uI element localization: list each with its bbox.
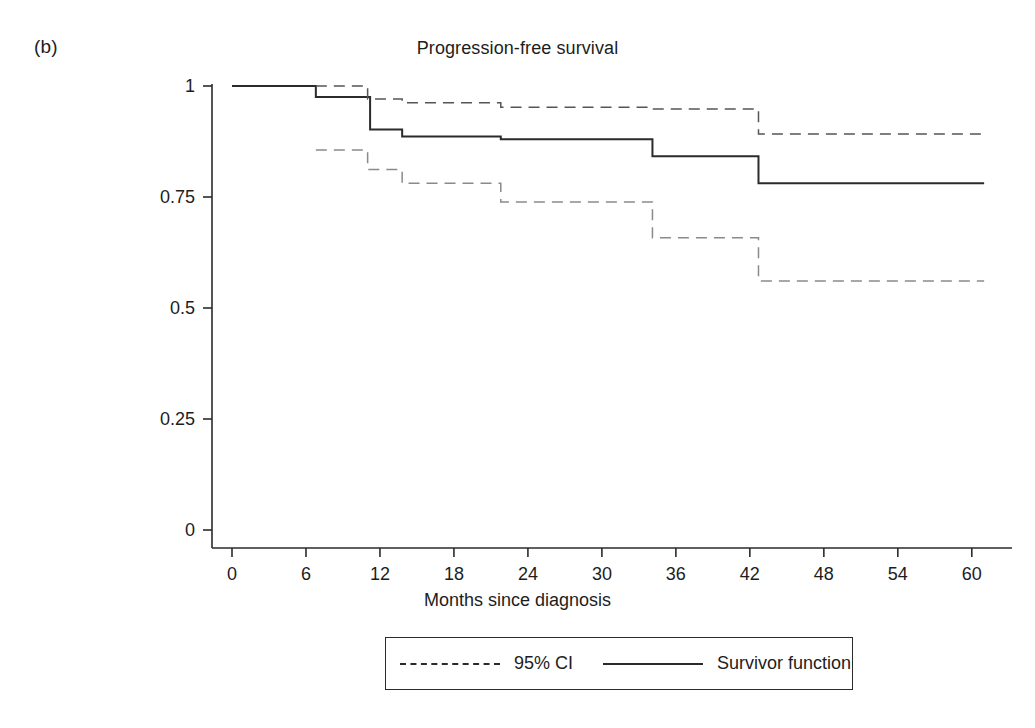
figure-panel: (b) Progression-free survival 00.250.50.…: [0, 0, 1035, 728]
chart-legend: 95% CI Survivor function: [385, 637, 853, 690]
series-95-ci-upper: [316, 86, 984, 134]
series-layer: [232, 86, 984, 281]
y-tick-label-0: 0: [125, 520, 195, 541]
survival-plot: [0, 0, 1035, 728]
x-axis-label: Months since diagnosis: [0, 590, 1035, 611]
legend-label-ci: 95% CI: [514, 653, 573, 674]
x-tick-label-6: 36: [646, 564, 706, 585]
solid-line-icon: [603, 663, 703, 665]
x-tick-label-7: 42: [720, 564, 780, 585]
x-tick-label-9: 54: [868, 564, 928, 585]
x-tick-label-4: 24: [498, 564, 558, 585]
x-tick-label-5: 30: [572, 564, 632, 585]
y-tick-label-3: 0.75: [125, 187, 195, 208]
y-tick-label-2: 0.5: [125, 298, 195, 319]
legend-label-survivor: Survivor function: [717, 653, 851, 674]
legend-entry-ci: 95% CI: [400, 653, 573, 674]
series-95-ci-lower: [316, 150, 984, 281]
chart-title: Progression-free survival: [0, 38, 1035, 59]
x-tick-label-10: 60: [942, 564, 1002, 585]
y-tick-label-4: 1: [125, 76, 195, 97]
legend-entry-survivor: Survivor function: [603, 653, 851, 674]
x-tick-label-8: 48: [794, 564, 854, 585]
x-tick-label-3: 18: [424, 564, 484, 585]
y-tick-label-1: 0.25: [125, 409, 195, 430]
x-tick-label-1: 6: [276, 564, 336, 585]
dashed-line-icon: [400, 663, 500, 665]
x-tick-label-2: 12: [350, 564, 410, 585]
axes-layer: [203, 84, 1012, 557]
x-tick-label-0: 0: [202, 564, 262, 585]
